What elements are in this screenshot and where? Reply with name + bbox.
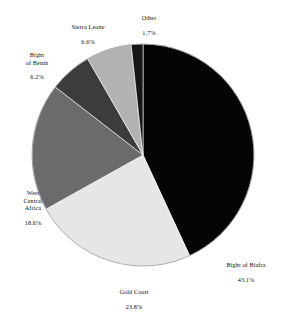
pie-label-value: 1.7%	[120, 29, 178, 36]
pie-label-other: Other 1.7%	[120, 7, 178, 44]
pie-chart: Bight of Biafra 43.1% Gold Coast 23.8% W…	[0, 0, 289, 315]
pie-label-name: Other	[120, 14, 178, 21]
pie-label-west-central-africa: West Central Africa 18.6%	[2, 182, 64, 233]
pie-label-value: 6.2%	[8, 73, 66, 80]
pie-label-value: 23.8%	[94, 303, 174, 310]
pie-label-name: West Central Africa	[2, 189, 64, 211]
pie-label-value: 6.6%	[52, 38, 124, 45]
pie-label-bight-of-biafra: Bight of Biafra 43.1%	[208, 254, 284, 291]
pie-label-name: Gold Coast	[94, 288, 174, 295]
pie-label-value: 43.1%	[208, 276, 284, 283]
pie-label-name: Bight of Biafra	[208, 261, 284, 268]
pie-label-value: 18.6%	[2, 219, 64, 226]
pie-label-name: Sierra Leone	[52, 23, 124, 30]
pie-label-sierra-leone: Sierra Leone 6.6%	[52, 16, 124, 53]
pie-label-name: Bight of Benin	[8, 51, 66, 66]
pie-label-gold-coast: Gold Coast 23.8%	[94, 281, 174, 315]
